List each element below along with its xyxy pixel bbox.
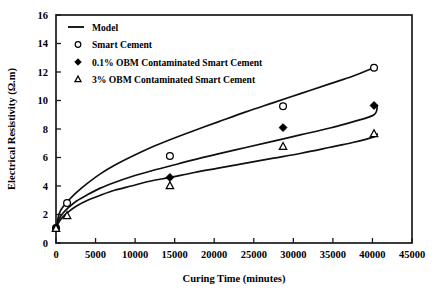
x-tick-label: 45000	[399, 249, 425, 260]
data-point-marker	[279, 124, 287, 132]
x-axis-tick-labels: 0500010000150002000025000300003500040000…	[53, 249, 425, 260]
x-tick-label: 0	[53, 249, 58, 260]
y-tick-label: 12	[38, 67, 49, 78]
y-tick-label: 0	[43, 238, 48, 249]
legend-marker-obm_01	[75, 59, 81, 65]
model-curves	[56, 68, 377, 229]
legend-label-obm_3: 3% OBM Contaminated Smart Cement	[92, 74, 256, 85]
y-tick-label: 10	[38, 95, 49, 106]
y-tick-label: 2	[43, 209, 48, 220]
data-point-marker	[279, 143, 286, 150]
model-curve	[56, 105, 377, 228]
legend-marker-obm_3	[75, 76, 81, 82]
y-axis-title: Electrical Resistivity (Ω.m)	[6, 68, 18, 190]
data-point-marker	[280, 103, 287, 110]
y-tick-label: 6	[43, 152, 48, 163]
figure-container: 0246810121416 05000100001500020000250003…	[0, 0, 436, 302]
data-point-marker	[166, 174, 174, 182]
y-tick-label: 16	[38, 10, 49, 21]
x-tick-label: 35000	[320, 249, 346, 260]
data-point-marker	[64, 200, 71, 207]
x-tick-label: 5000	[85, 249, 106, 260]
legend-label-obm_01: 0.1% OBM Contaminated Smart Cement	[92, 57, 263, 68]
model-curve	[56, 134, 377, 229]
y-axis-tick-labels: 0246810121416	[38, 10, 49, 249]
data-point-marker	[167, 153, 174, 160]
y-tick-label: 14	[38, 38, 49, 49]
x-tick-label: 15000	[162, 249, 188, 260]
x-axis-title: Curing Time (minutes)	[183, 273, 286, 285]
x-tick-label: 40000	[359, 249, 385, 260]
legend-label-model: Model	[92, 22, 118, 33]
data-point-marker	[370, 130, 377, 137]
legend-label-smart_cement: Smart Cement	[92, 39, 153, 50]
legend-marker-smart_cement	[75, 42, 81, 48]
y-tick-label: 8	[43, 124, 48, 135]
data-point-marker	[166, 182, 173, 189]
x-tick-label: 30000	[280, 249, 306, 260]
chart-legend: ModelSmart Cement0.1% OBM Contaminated S…	[68, 22, 263, 86]
x-tick-label: 25000	[241, 249, 267, 260]
resistivity-chart: 0246810121416 05000100001500020000250003…	[0, 0, 436, 302]
data-point-marker	[371, 64, 378, 71]
x-tick-label: 20000	[201, 249, 227, 260]
x-tick-label: 10000	[122, 249, 148, 260]
y-tick-label: 4	[43, 181, 49, 192]
